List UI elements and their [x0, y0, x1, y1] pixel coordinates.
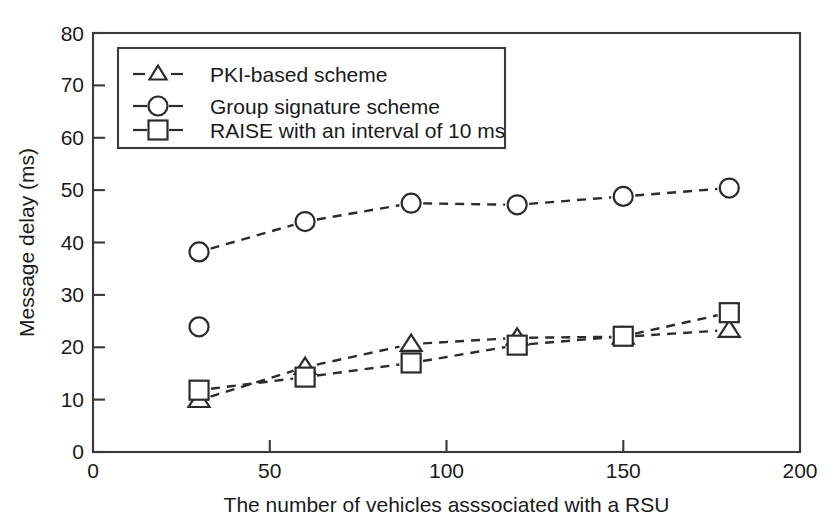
x-axis-title: The number of vehicles asssociated with … — [224, 493, 670, 516]
series-segment — [211, 379, 293, 389]
series-segment — [423, 347, 505, 361]
triangle-marker — [401, 335, 422, 351]
x-tick-label-200: 200 — [782, 459, 817, 482]
series-segment — [317, 347, 400, 365]
series-segment — [635, 189, 717, 195]
y-axis-ticks — [93, 33, 105, 452]
series-segment — [317, 365, 399, 376]
circle-marker — [402, 194, 421, 213]
circle-marker-icon — [149, 97, 168, 116]
y-tick-label-0: 0 — [72, 440, 84, 463]
y-tick-label-80: 80 — [61, 22, 84, 45]
y-tick-label-60: 60 — [61, 126, 84, 149]
series-circle — [190, 179, 739, 262]
y-tick-label-30: 30 — [61, 283, 84, 306]
x-tick-label-0: 0 — [87, 459, 99, 482]
series-segment — [423, 203, 505, 204]
series-square — [190, 303, 739, 400]
x-tick-label-50: 50 — [258, 459, 281, 482]
square-marker — [402, 353, 421, 372]
circle-marker — [508, 195, 527, 214]
series-segment — [529, 197, 611, 203]
legend-label-raise: RAISE with an interval of 10 ms — [210, 119, 505, 142]
message-delay-line-chart: 0 10 20 30 40 50 60 70 80 0 50 100 150 2… — [0, 0, 839, 525]
series-segment — [423, 339, 505, 344]
series-segment — [529, 337, 611, 344]
x-axis-ticks — [93, 440, 800, 452]
series-segment — [317, 205, 399, 219]
square-marker-icon — [149, 121, 168, 140]
y-tick-label-40: 40 — [61, 231, 84, 254]
square-marker — [190, 381, 209, 400]
x-tick-label-150: 150 — [606, 459, 641, 482]
series-segment — [211, 371, 294, 397]
circle-marker — [190, 317, 209, 336]
circle-marker — [720, 179, 739, 198]
y-tick-label-10: 10 — [61, 388, 84, 411]
circle-marker — [296, 212, 315, 231]
legend-label-pki: PKI-based scheme — [210, 63, 387, 86]
square-marker — [508, 336, 527, 355]
legend: PKI-based scheme Group signature scheme … — [118, 48, 505, 148]
y-axis-tick-labels: 0 10 20 30 40 50 60 70 80 — [61, 22, 84, 463]
y-axis-title: Message delay (ms) — [15, 148, 38, 337]
series-triangle — [189, 320, 740, 407]
series-segment — [635, 331, 717, 336]
circle-marker — [614, 187, 633, 206]
legend-label-group-signature: Group signature scheme — [210, 95, 440, 118]
x-axis-tick-labels: 0 50 100 150 200 — [87, 459, 817, 482]
chart-figure: 0 10 20 30 40 50 60 70 80 0 50 100 150 2… — [0, 0, 839, 525]
square-marker — [614, 327, 633, 346]
circle-marker — [190, 242, 209, 261]
square-marker — [296, 368, 315, 387]
square-marker — [720, 303, 739, 322]
x-tick-label-100: 100 — [429, 459, 464, 482]
y-tick-label-20: 20 — [61, 335, 84, 358]
data-series-layer — [189, 179, 740, 407]
y-tick-label-70: 70 — [61, 73, 84, 96]
y-tick-label-50: 50 — [61, 178, 84, 201]
series-segment — [211, 225, 294, 249]
